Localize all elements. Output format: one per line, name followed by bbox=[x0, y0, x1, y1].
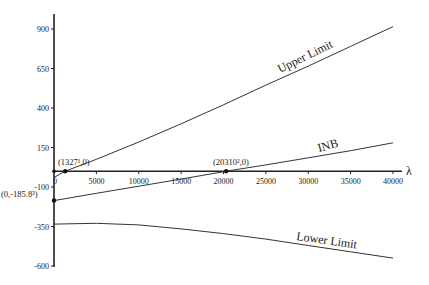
chart-canvas: λ900650400150-100-350-600050001000015000… bbox=[0, 0, 429, 285]
point-label: (0,-185.8³) bbox=[1, 189, 38, 199]
upper-limit-label: Upper Limit bbox=[275, 37, 335, 76]
origin-marker bbox=[52, 169, 56, 173]
x-tick-label: 5000 bbox=[88, 177, 104, 186]
y-tick-label: -350 bbox=[34, 223, 49, 232]
x-tick-label: 35000 bbox=[341, 177, 361, 186]
y-tick-label: 900 bbox=[37, 25, 49, 34]
inb-label: INB bbox=[316, 136, 340, 155]
x-tick-label: 30000 bbox=[298, 177, 318, 186]
x-tick-label: 15000 bbox=[171, 177, 191, 186]
x-axis-label: λ bbox=[406, 164, 412, 178]
y-tick-label: 400 bbox=[37, 104, 49, 113]
y-tick-label: -600 bbox=[34, 262, 49, 271]
chart-figure: λ900650400150-100-350-600050001000015000… bbox=[0, 0, 429, 285]
upper-limit-line bbox=[54, 27, 393, 178]
point-label: (1327¹,0) bbox=[58, 157, 90, 167]
point-marker bbox=[224, 169, 228, 173]
y-tick-label: 150 bbox=[37, 144, 49, 153]
x-tick-label: 20000 bbox=[214, 177, 234, 186]
x-tick-label: 25000 bbox=[256, 177, 276, 186]
point-label: (20310²,0) bbox=[213, 157, 249, 167]
point-marker bbox=[52, 198, 56, 202]
point-marker bbox=[63, 169, 67, 173]
y-tick-label: 650 bbox=[37, 65, 49, 74]
x-tick-label: 0 bbox=[53, 177, 57, 186]
x-tick-label: 40000 bbox=[383, 177, 403, 186]
